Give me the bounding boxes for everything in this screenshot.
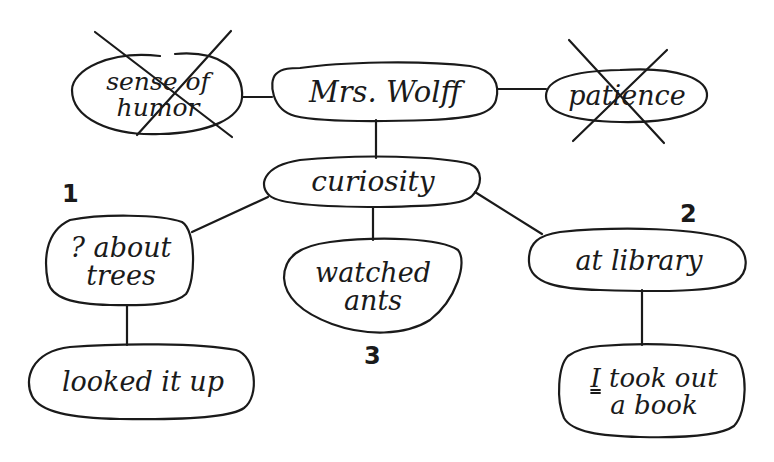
node-patience-text: patience: [568, 82, 685, 110]
node-mrs-wolff: Mrs. Wolff: [276, 64, 494, 120]
node-watched-ants: watched ants: [288, 244, 458, 330]
node-about-trees: ? about trees: [48, 220, 194, 304]
sequence-number-2: 2: [680, 200, 697, 228]
node-sense-of-humor-line1: sense of: [106, 69, 210, 95]
node-sense-of-humor-line2: humor: [117, 95, 200, 121]
node-looked-it-up-text: looked it up: [62, 368, 224, 396]
node-sense-of-humor: sense of humor: [78, 58, 238, 132]
node-about-trees-line2: trees: [86, 262, 156, 290]
node-at-library-text: at library: [575, 247, 702, 275]
sequence-number-3: 3: [364, 342, 381, 370]
node-watched-ants-line1: watched: [315, 259, 431, 287]
node-looked-it-up: looked it up: [30, 347, 256, 417]
node-watched-ants-line2: ants: [344, 287, 402, 315]
node-took-out-book: I took out a book: [562, 348, 746, 436]
underlined-i: I: [590, 363, 600, 393]
node-curiosity: curiosity: [266, 158, 480, 206]
node-took-out-book-line2: a book: [610, 392, 697, 419]
node-mrs-wolff-text: Mrs. Wolff: [309, 77, 461, 107]
edge-curiosity-trees: [192, 197, 268, 232]
node-at-library: at library: [532, 232, 746, 290]
node-about-trees-line1: ? about: [71, 234, 172, 262]
node-curiosity-text: curiosity: [311, 167, 434, 196]
sequence-number-1: 1: [62, 180, 79, 208]
node-patience: patience: [548, 70, 706, 122]
edge-curiosity-library: [475, 192, 542, 234]
node-took-out-book-line1: I took out: [590, 365, 717, 392]
node-took-out-book-line1-rest: took out: [601, 363, 718, 393]
